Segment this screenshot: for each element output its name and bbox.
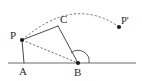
point-label-P: P <box>10 29 16 41</box>
point-label-P-prime: P' <box>121 15 129 26</box>
geometry-canvas: A B C P P' <box>0 0 142 81</box>
point-label-C: C <box>60 13 67 25</box>
rotation-arc-dashed <box>22 14 119 40</box>
point-dot-P <box>20 38 24 42</box>
segment-P-to-B-dashed <box>22 40 78 63</box>
point-label-B: B <box>74 66 81 78</box>
segment-A-to-P <box>22 40 24 63</box>
point-dot-B <box>76 61 80 65</box>
segment-P-to-C <box>22 26 58 40</box>
angle-arc-at-B <box>71 50 89 63</box>
geometry-diagram: A B C P P' <box>0 0 142 81</box>
segment-C-to-B <box>58 26 78 63</box>
point-label-A: A <box>19 65 27 77</box>
